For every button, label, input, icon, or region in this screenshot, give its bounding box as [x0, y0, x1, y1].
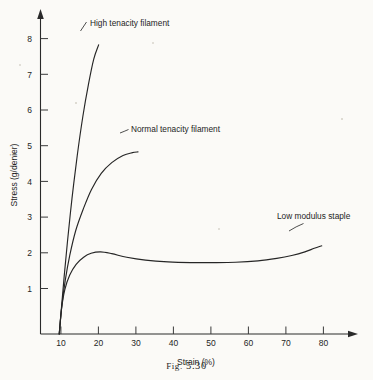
y-axis — [37, 9, 44, 334]
figure-caption: Fig. 5.30 — [0, 360, 373, 371]
series-label-high-tenacity-filament: High tenacity filament — [90, 18, 170, 28]
curve-normal-tenacity-filament — [59, 152, 138, 334]
figure-caption-number: 5.30 — [186, 360, 207, 371]
y-axis-arrowhead — [37, 9, 44, 19]
curve-low-modulus-staple — [59, 246, 322, 334]
x-tick-marks — [61, 327, 324, 335]
y-tick-label: 3 — [27, 212, 32, 222]
y-tick-label: 1 — [27, 284, 32, 294]
paper-speck — [341, 118, 343, 120]
y-tick-label: 2 — [27, 248, 32, 258]
paper-speck — [75, 102, 77, 104]
stress-strain-chart: 1 2 3 4 5 6 7 8 10 20 30 40 50 60 — [0, 0, 373, 380]
x-tick-label: 70 — [281, 338, 291, 348]
x-tick-label: 60 — [244, 338, 254, 348]
y-tick-label: 5 — [27, 141, 32, 151]
y-tick-label: 8 — [27, 34, 32, 44]
x-tick-label: 80 — [319, 338, 329, 348]
x-tick-labels: 10 20 30 40 50 60 70 80 — [56, 338, 328, 348]
x-axis-arrowhead — [348, 331, 358, 337]
leader-normal-tenacity — [120, 130, 129, 134]
figure-caption-prefix: Fig. — [166, 361, 183, 371]
paper-speck — [19, 64, 21, 66]
x-tick-label: 40 — [169, 338, 179, 348]
figure-container: 1 2 3 4 5 6 7 8 10 20 30 40 50 60 — [0, 0, 373, 380]
leader-high-tenacity — [81, 22, 87, 31]
x-tick-label: 20 — [94, 338, 104, 348]
y-axis-title: Stress (g/denier) — [9, 143, 19, 206]
leader-low-modulus — [289, 224, 304, 232]
x-tick-label: 30 — [131, 338, 141, 348]
paper-speck — [218, 228, 220, 230]
y-tick-marks — [41, 39, 49, 289]
y-tick-label: 6 — [27, 105, 32, 115]
x-axis — [41, 331, 359, 337]
series-label-low-modulus-staple: Low modulus staple — [277, 211, 351, 221]
y-tick-label: 4 — [27, 177, 32, 187]
x-tick-label: 50 — [206, 338, 216, 348]
paper-speck — [152, 42, 154, 44]
y-tick-label: 7 — [27, 70, 32, 80]
y-tick-labels: 1 2 3 4 5 6 7 8 — [27, 34, 32, 294]
series-label-normal-tenacity-filament: Normal tenacity filament — [131, 124, 221, 134]
x-tick-label: 10 — [56, 338, 66, 348]
